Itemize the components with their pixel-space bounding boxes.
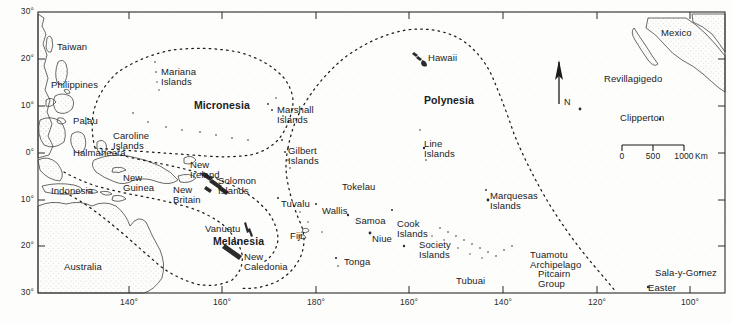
mindanao-island xyxy=(53,94,73,113)
place-label-samoa: Samoa xyxy=(355,216,386,226)
place-label-tonga: Tonga xyxy=(344,257,370,267)
place-label-caroline-islands: Caroline Islands xyxy=(113,131,149,151)
region-label-melanesia: Melanesia xyxy=(213,236,264,247)
place-label-marquesas-islands: Marquesas Islands xyxy=(490,191,538,211)
taiwan-island xyxy=(46,36,53,52)
place-label-tokelau: Tokelau xyxy=(342,182,375,192)
place-label-solomon-islands: Solomon Islands xyxy=(218,176,256,196)
place-label-taiwan: Taiwan xyxy=(57,42,87,52)
place-label-indonesia: Indonesia xyxy=(51,186,93,196)
lon-tick-label: 160° xyxy=(213,298,231,307)
lon-tick-label: 180° xyxy=(307,298,325,307)
place-label-tubuai: Tubuai xyxy=(456,276,485,286)
lat-tick-label: 10° xyxy=(21,195,34,204)
place-label-tuamotu-archipelago: Tuamotu Archipelago xyxy=(530,250,581,270)
place-label-mariana-islands: Mariana Islands xyxy=(161,67,196,87)
place-label-niue: Niue xyxy=(372,234,392,244)
place-label-gilbert-islands: Gilbert Islands xyxy=(288,146,319,166)
pacific-map: 30° 20° 10° 0° 10° 20° 30° 140° 160° 180… xyxy=(0,0,732,324)
lon-tick-label: 160° xyxy=(400,298,418,307)
place-label-pitcairn-group: Pitcairn Group xyxy=(538,269,570,289)
place-label-sala-y-gomez: Sala-y-Gomez xyxy=(655,268,717,278)
place-label-line-islands: Line Islands xyxy=(424,139,455,159)
place-label-society-islands: Society Islands xyxy=(419,240,451,260)
scale-tick-1000: 1000 xyxy=(674,152,693,161)
place-label-clipperton: Clipperton xyxy=(620,113,664,123)
borneo-island xyxy=(39,118,66,147)
place-label-revillagigedo: Revillagigedo xyxy=(604,74,662,84)
place-label-mexico: Mexico xyxy=(661,28,692,38)
place-label-new-guinea: New Guinea xyxy=(123,173,154,193)
north-arrow-label: N xyxy=(564,98,571,107)
map-canvas xyxy=(0,0,732,324)
region-label-polynesia: Polynesia xyxy=(424,95,474,106)
lat-tick-label: 20° xyxy=(21,241,34,250)
place-label-new-britain: New Britain xyxy=(173,185,201,205)
scale-tick-0: 0 xyxy=(620,152,625,161)
lat-tick-label: 30° xyxy=(21,288,34,297)
place-label-new-ireland: New Ireland xyxy=(190,160,220,180)
lat-tick-label: 0° xyxy=(26,148,34,157)
lat-tick-label: 10° xyxy=(21,101,34,110)
lat-tick-label: 20° xyxy=(21,54,34,63)
lon-tick-label: 140° xyxy=(494,298,512,307)
lon-tick-label: 140° xyxy=(120,298,138,307)
place-label-new-caledonia: New Caledonia xyxy=(244,252,288,272)
scale-tick-500: 500 xyxy=(646,152,660,161)
lat-tick-label: 30° xyxy=(21,7,34,16)
place-label-tuvalu: Tuvalu xyxy=(281,199,310,209)
place-label-philippines: Philippines xyxy=(51,80,98,90)
lon-tick-label: 120° xyxy=(588,298,606,307)
region-label-micronesia: Micronesia xyxy=(194,100,250,111)
place-label-palau: Palau xyxy=(73,116,98,126)
place-label-australia: Australia xyxy=(64,262,102,272)
place-label-easter: Easter xyxy=(648,283,676,293)
place-label-vanuatu: Vanuatu xyxy=(205,224,240,234)
place-label-cook-islands: Cook Islands xyxy=(397,219,428,239)
place-label-wallis: Wallis xyxy=(322,206,348,216)
lon-tick-label: 100° xyxy=(681,298,699,307)
place-label-fiji: Fiji xyxy=(290,231,303,241)
place-label-marshall-islands: Marshall Islands xyxy=(277,105,314,125)
scale-unit-label: Km xyxy=(695,152,708,161)
place-label-hawaii: Hawaii xyxy=(428,53,457,63)
